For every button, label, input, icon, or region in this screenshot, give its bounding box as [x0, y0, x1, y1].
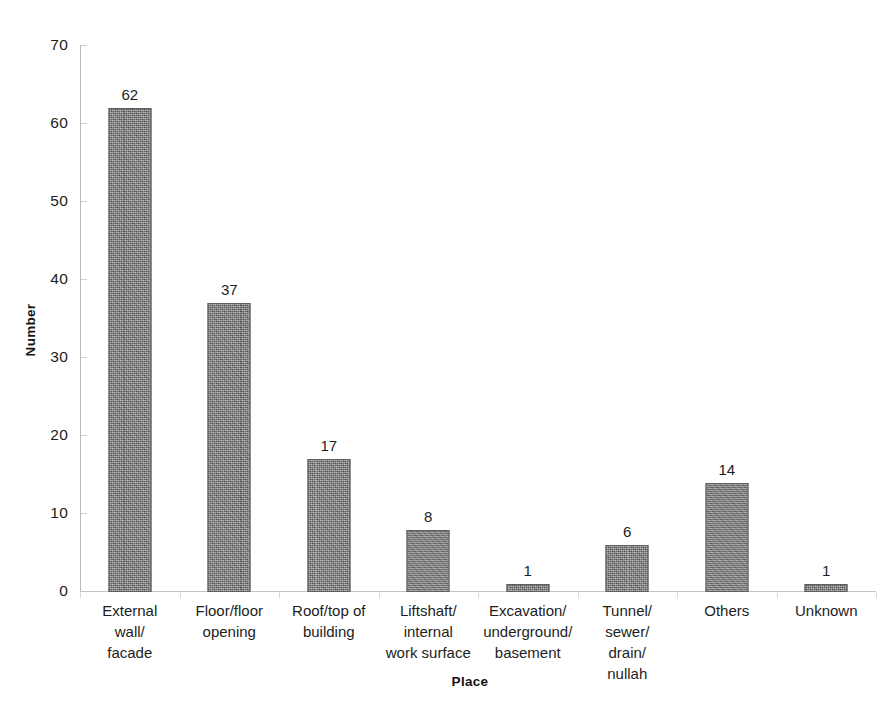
x-tick-mark	[578, 592, 579, 598]
bar-chart: Number 010203040506070 Place 62371781614…	[0, 0, 889, 718]
y-tick-label: 40	[30, 271, 68, 287]
bar-value-label: 62	[121, 87, 138, 102]
bar-group: 8	[379, 41, 479, 592]
x-tick-mark	[279, 592, 280, 598]
y-tick-label: 10	[30, 505, 68, 521]
x-tick-mark	[876, 592, 877, 598]
bar-value-label: 8	[424, 509, 432, 524]
x-tick-mark	[80, 592, 81, 598]
x-axis-title: Place	[452, 674, 489, 689]
y-tick-label: 30	[30, 349, 68, 365]
x-tick-mark	[379, 592, 380, 598]
bar-group: 1	[478, 41, 578, 592]
x-category-label: Unknown	[766, 600, 886, 621]
bar-group: 1	[777, 41, 877, 592]
bar-value-label: 17	[320, 438, 337, 453]
y-tick-label: 0	[30, 583, 68, 599]
bar-group: 37	[180, 41, 280, 592]
x-tick-mark	[677, 592, 678, 598]
x-tick-mark	[180, 592, 181, 598]
x-tick-mark	[777, 592, 778, 598]
bar-group: 62	[80, 41, 180, 592]
bar-value-label: 1	[822, 563, 830, 578]
y-tick-label: 70	[30, 37, 68, 53]
bar-value-label: 6	[623, 524, 631, 539]
bar[interactable]	[307, 459, 350, 592]
y-tick-label: 60	[30, 115, 68, 131]
bar-group: 6	[578, 41, 678, 592]
bar[interactable]	[705, 483, 748, 592]
x-tick-mark	[478, 592, 479, 598]
plot-area: 623717816141	[80, 40, 876, 592]
bar[interactable]	[108, 108, 151, 592]
bar[interactable]	[407, 530, 450, 592]
bar[interactable]	[805, 584, 848, 592]
bar[interactable]	[606, 545, 649, 592]
bar-value-label: 14	[718, 462, 735, 477]
bar[interactable]	[506, 584, 549, 592]
y-tick-label: 50	[30, 193, 68, 209]
y-tick-label: 20	[30, 427, 68, 443]
bar-value-label: 37	[221, 282, 238, 297]
bar-value-label: 1	[524, 563, 532, 578]
bar-group: 17	[279, 41, 379, 592]
bar-group: 14	[677, 41, 777, 592]
bar[interactable]	[208, 303, 251, 592]
